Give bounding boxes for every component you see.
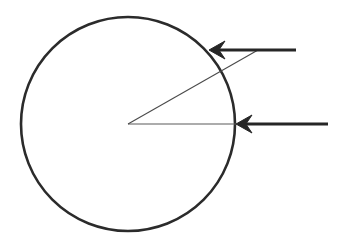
figure-container [0, 0, 342, 240]
canvas-background [0, 0, 342, 240]
circle-diagram [0, 0, 342, 240]
